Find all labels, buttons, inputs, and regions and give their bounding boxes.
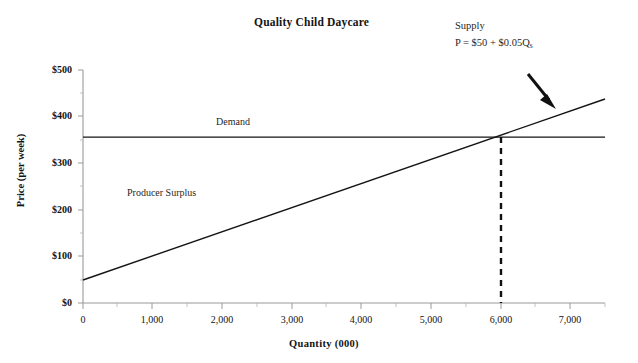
chart-plot-svg (0, 0, 638, 363)
y-tick-label-100: $100 (26, 251, 72, 261)
x-tick-label-4000: 4,000 (331, 315, 391, 325)
chart-background (0, 0, 638, 363)
x-tick-label-6000: 6,000 (471, 315, 531, 325)
producer-surplus-annotation-label: Producer Surplus (127, 188, 196, 198)
x-axis-title: Quantity (000) (244, 338, 404, 349)
supply-equation-subscript: s (530, 41, 533, 50)
x-tick-label-0: 0 (53, 315, 113, 325)
y-tick-label-200: $200 (26, 205, 72, 215)
y-tick-label-400: $400 (26, 111, 72, 121)
supply-annotation-label: Supply (455, 21, 485, 32)
supply-equation-text: P = $50 + $0.05Q (455, 37, 530, 48)
y-tick-label-300: $300 (26, 158, 72, 168)
x-tick-label-3000: 3,000 (262, 315, 322, 325)
y-tick-label-0: $0 (26, 298, 72, 308)
x-tick-label-7000: 7,000 (540, 315, 600, 325)
chart-container: Quality Child Daycare Supply P = $50 + $… (0, 0, 638, 363)
y-tick-label-500: $500 (26, 65, 72, 75)
y-axis-title: Price (per week) (15, 121, 26, 221)
x-tick-label-5000: 5,000 (401, 315, 461, 325)
supply-equation-label: P = $50 + $0.05Qs (455, 38, 533, 49)
x-tick-label-2000: 2,000 (192, 315, 252, 325)
x-tick-label-1000: 1,000 (122, 315, 182, 325)
chart-title: Quality Child Daycare (254, 17, 369, 29)
demand-annotation-label: Demand (216, 117, 250, 127)
